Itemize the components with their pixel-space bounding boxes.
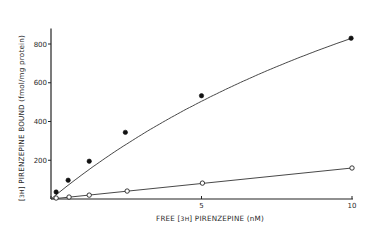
y-tick-labels: 200400600800 xyxy=(34,41,47,165)
y-label-text: PIRENZEPINE BOUND (fmol/mg protein) xyxy=(17,35,26,184)
x-tick-label: 5 xyxy=(199,202,203,210)
filled-data-point xyxy=(199,94,203,98)
x-axis-label: FREE [3H] PIRENZEPINE (nM) xyxy=(156,214,264,223)
y-tick-label: 200 xyxy=(34,157,47,165)
open-data-point xyxy=(125,189,129,193)
y-axis-label: [3H] PIRENZEPINE BOUND (fmol/mg protein) xyxy=(17,35,26,201)
x-tick-label: 10 xyxy=(348,202,357,210)
x-label-text: PIRENZEPINE (nM) xyxy=(195,214,264,223)
svg-text:[3H] PIRENZEPINE BOUND (fmo: [3H] PIRENZEPINE BOUND (fmol/mg protein) xyxy=(17,35,26,201)
y-tick-label: 600 xyxy=(34,79,47,87)
y-tick-label: 400 xyxy=(34,118,47,126)
x-label-isotope: 3H xyxy=(181,215,190,222)
total-binding-curve xyxy=(51,38,352,199)
y-label-isotope: 3H xyxy=(18,189,25,198)
data-points xyxy=(54,36,354,200)
filled-data-point xyxy=(123,130,127,134)
open-data-point xyxy=(54,196,58,200)
filled-data-point xyxy=(54,190,58,194)
filled-data-point xyxy=(349,36,353,40)
open-data-point xyxy=(350,166,354,170)
saturation-binding-chart: 200400600800 510 [3H] PIRENZEPINE BOUND … xyxy=(0,0,374,239)
x-tick-labels: 510 xyxy=(199,202,356,210)
filled-data-point xyxy=(66,178,70,182)
x-label-prefix: FREE xyxy=(156,214,175,223)
open-data-point xyxy=(87,193,91,197)
open-data-point xyxy=(200,181,204,185)
svg-text:FREE [3H] PIRENZEPINE (nM): FREE [3H] PIRENZEPINE (nM) xyxy=(156,214,264,223)
fit-curves xyxy=(51,38,352,199)
open-data-point xyxy=(67,195,71,199)
filled-data-point xyxy=(87,159,91,163)
y-tick-label: 800 xyxy=(34,41,47,49)
